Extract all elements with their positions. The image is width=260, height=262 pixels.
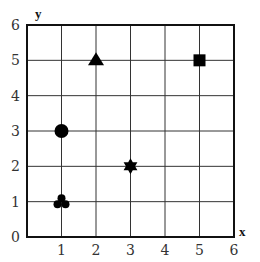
x-tick-label: 6 xyxy=(230,242,239,258)
data-points xyxy=(54,52,206,208)
x-tick-label: 4 xyxy=(161,242,170,258)
triangle-marker-icon xyxy=(88,52,104,65)
y-tick-label: 5 xyxy=(11,52,20,68)
circle-marker-icon xyxy=(55,124,69,138)
scatter-chart: 0123456 123456 y x xyxy=(0,0,260,262)
y-tick-label: 6 xyxy=(11,17,20,33)
x-tick-labels: 123456 xyxy=(57,242,239,258)
y-tick-label: 3 xyxy=(11,123,20,139)
y-tick-label: 1 xyxy=(11,194,20,210)
y-tick-label: 0 xyxy=(11,229,20,245)
y-tick-labels: 0123456 xyxy=(11,17,20,245)
x-axis-label: x xyxy=(239,224,246,239)
y-tick-label: 4 xyxy=(11,88,20,104)
x-tick-label: 5 xyxy=(195,242,204,258)
x-tick-label: 1 xyxy=(57,242,66,258)
y-tick-label: 2 xyxy=(11,158,20,174)
x-tick-label: 2 xyxy=(92,242,101,258)
x-tick-label: 3 xyxy=(126,242,135,258)
y-axis-label: y xyxy=(35,6,42,21)
square-marker-icon xyxy=(194,54,206,66)
